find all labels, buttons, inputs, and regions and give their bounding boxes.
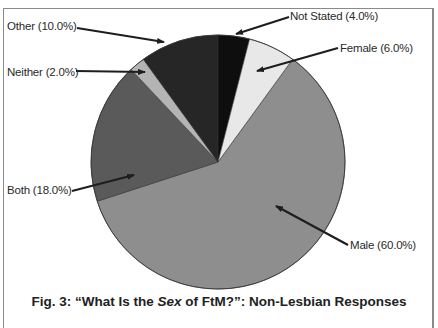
figure-caption: Fig. 3: “What Is the Sex of FtM?”: Non-L… (0, 294, 438, 309)
pie-slices (91, 35, 345, 289)
caption-italic: Sex (157, 294, 181, 309)
arrow-other (77, 28, 164, 42)
caption-suffix: of FtM?”: Non-Lesbian Responses (182, 294, 407, 309)
label-other: Other (10.0%) (7, 20, 77, 32)
arrow-neither (76, 71, 145, 72)
label-both: Both (18.0%) (7, 184, 72, 196)
arrow-not-stated (236, 17, 289, 34)
label-not-stated: Not Stated (4.0%) (290, 10, 378, 22)
caption-prefix: Fig. 3: “What Is the (31, 294, 157, 309)
label-neither: Neither (2.0%) (7, 66, 79, 78)
label-female: Female (6.0%) (340, 42, 413, 54)
label-male: Male (60.0%) (350, 239, 416, 251)
